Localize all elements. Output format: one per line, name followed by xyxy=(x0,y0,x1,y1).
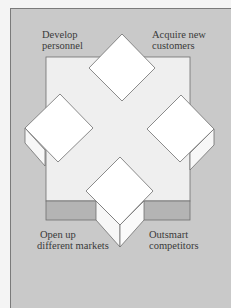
label-open-markets: Open up different markets xyxy=(37,229,109,251)
label-outsmart-competitors: Outsmart competitors xyxy=(149,229,199,251)
label-line: competitors xyxy=(149,240,199,251)
label-line: different markets xyxy=(37,240,109,251)
label-line: personnel xyxy=(42,40,83,51)
label-line: Open up xyxy=(37,229,109,240)
label-line: Develop xyxy=(42,29,83,40)
label-line: Outsmart xyxy=(149,229,199,240)
label-line: Acquire new xyxy=(152,29,206,40)
label-acquire-customers: Acquire new customers xyxy=(152,29,206,51)
label-develop-personnel: Develop personnel xyxy=(42,29,83,51)
label-line: customers xyxy=(152,40,206,51)
